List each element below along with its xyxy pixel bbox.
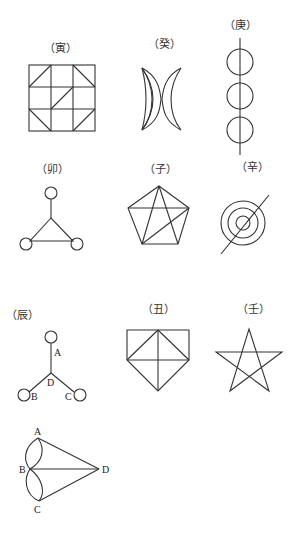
figure-label: （卯）	[36, 163, 69, 176]
point-label-a: A	[54, 347, 62, 358]
figure-xin: （辛）	[221, 160, 269, 254]
point-label-c: C	[65, 391, 72, 402]
figure-label: （辰）	[6, 309, 39, 322]
figure-sheet: （寅） （癸） （庚） （卯） （子）	[0, 0, 298, 534]
figure-yin: （寅）	[29, 41, 95, 131]
point-label-b: B	[31, 391, 38, 402]
figure-label: （壬）	[237, 303, 270, 316]
figure-ren: （壬）	[216, 303, 282, 391]
point-label-d: D	[102, 464, 109, 475]
figure-chou: （丑）	[127, 303, 189, 391]
point-label-a: A	[34, 426, 42, 437]
figure-geng: （庚）	[224, 18, 257, 155]
figure-label: （寅）	[44, 41, 77, 55]
figure-gui: （癸）	[142, 37, 181, 130]
figure-label: （庚）	[224, 18, 257, 32]
figure-label: （丑）	[142, 303, 175, 316]
point-label-c: C	[34, 504, 41, 515]
figure-abcd: A B C D	[19, 426, 109, 515]
point-label-d: D	[47, 377, 54, 388]
point-label-b: B	[19, 464, 26, 475]
figure-mao: （卯）	[20, 163, 83, 250]
figure-chen: （辰） A D B C	[6, 309, 87, 402]
figure-label: （癸）	[148, 37, 181, 51]
figure-label: （子）	[144, 163, 177, 176]
figure-zi: （子）	[128, 163, 189, 244]
figure-label: （辛）	[236, 160, 269, 174]
